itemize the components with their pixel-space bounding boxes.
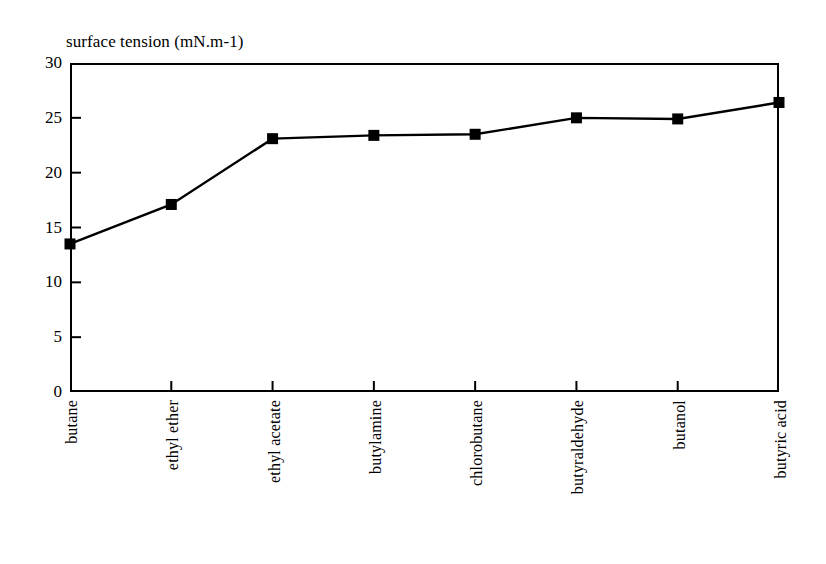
x-axis-tick-labels: butaneethyl etherethyl acetatebutylamine… [0,0,826,564]
x-tick-label: butylamine [368,400,384,474]
chart-figure: surface tension (mN.m-1) 051015202530 bu… [0,0,826,564]
x-tick-label: ethyl ether [165,400,181,470]
x-tick-label: chlorobutane [469,400,485,486]
x-tick-label: ethyl acetate [267,400,283,483]
x-tick-label: butyric acid [773,400,789,478]
x-tick-label: butyraldehyde [570,400,586,494]
x-tick-label: butane [64,400,80,444]
x-tick-label: butanol [672,400,688,449]
